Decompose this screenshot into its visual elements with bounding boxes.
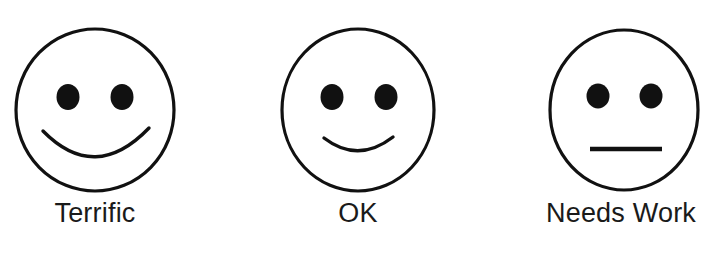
rating-scale-row: Terrific OK Needs Work <box>0 0 714 257</box>
rating-option-terrific[interactable] <box>12 18 178 198</box>
rating-option-ok[interactable] <box>278 18 438 198</box>
rating-label-needs-work: Needs Work <box>528 196 714 230</box>
smiley-face-neutral-icon <box>546 18 702 198</box>
smiley-face-happy-icon <box>12 18 178 198</box>
feedback-faces-figure: Terrific OK Needs Work <box>0 0 714 257</box>
rating-label-ok: OK <box>276 196 440 230</box>
rating-label-terrific: Terrific <box>0 196 190 230</box>
rating-option-needs-work[interactable] <box>546 18 702 198</box>
smiley-face-slight-smile-icon <box>278 18 438 198</box>
